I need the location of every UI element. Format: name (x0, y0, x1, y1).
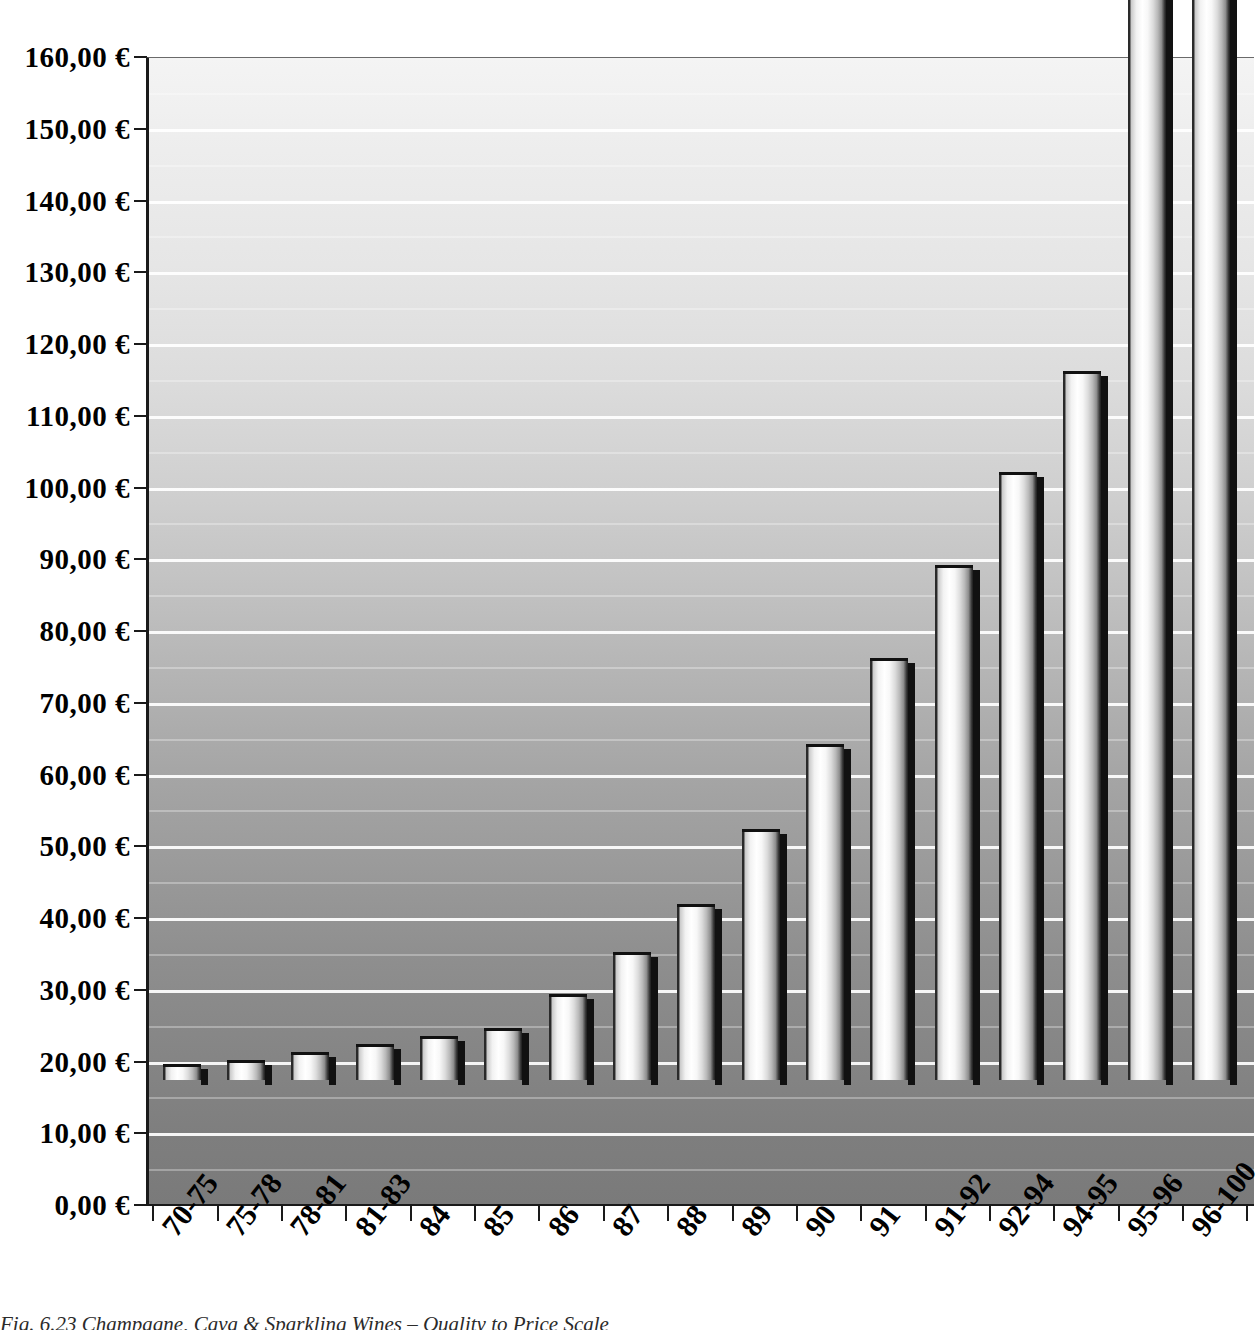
bar-body (999, 472, 1037, 1080)
y-axis-tick-label: 70,00 € (40, 686, 131, 719)
bar-shadow (201, 1069, 208, 1086)
x-axis-tick-mark (925, 1205, 927, 1221)
bar (1128, 0, 1172, 1080)
bar (549, 994, 593, 1080)
bar-body (870, 658, 908, 1080)
y-axis-tick-label: 130,00 € (25, 256, 131, 289)
x-axis-tick-mark (1118, 1205, 1120, 1221)
x-axis-tick-mark (345, 1205, 347, 1221)
bar-shadow (458, 1041, 465, 1085)
y-axis-tick-label: 10,00 € (40, 1117, 131, 1150)
bar (806, 744, 850, 1080)
y-axis-tick-label: 140,00 € (25, 184, 131, 217)
bar-body (549, 994, 587, 1080)
x-axis-tick-mark (603, 1205, 605, 1221)
y-axis: 160,00 €150,00 €140,00 €130,00 €120,00 €… (0, 0, 140, 1230)
x-axis-tick-mark (796, 1205, 798, 1221)
x-axis-tick-mark (860, 1205, 862, 1221)
bar (484, 1028, 528, 1080)
x-axis-tick-mark (1246, 1205, 1248, 1221)
bar-shadow (522, 1033, 529, 1085)
bar-shadow (973, 570, 980, 1085)
bar-series (146, 0, 1254, 1205)
bar (1063, 371, 1107, 1080)
bar (227, 1060, 271, 1080)
bar-body (227, 1060, 265, 1080)
bar-body (1063, 371, 1101, 1080)
y-axis-tick-label: 160,00 € (25, 41, 131, 74)
bar-shadow (780, 834, 787, 1085)
bar-body (420, 1036, 458, 1080)
y-axis-tick-label: 0,00 € (55, 1189, 131, 1222)
bar-body (356, 1044, 394, 1080)
bar-body (1192, 0, 1230, 1080)
bar (613, 952, 657, 1080)
y-axis-tick-label: 150,00 € (25, 112, 131, 145)
bar (935, 565, 979, 1080)
bar-shadow (908, 663, 915, 1085)
bar-shadow (844, 749, 851, 1085)
bar-shadow (329, 1057, 336, 1085)
y-axis-tick-label: 30,00 € (40, 973, 131, 1006)
bar-shadow (265, 1065, 272, 1085)
bar-shadow (1166, 0, 1173, 1085)
x-axis-tick-mark (667, 1205, 669, 1221)
x-axis-tick-mark (989, 1205, 991, 1221)
y-axis-tick-label: 20,00 € (40, 1045, 131, 1078)
bar (999, 472, 1043, 1080)
bar-body (806, 744, 844, 1080)
y-axis-tick-label: 100,00 € (25, 471, 131, 504)
bar (163, 1064, 207, 1081)
bar-shadow (715, 909, 722, 1086)
y-axis-tick-label: 110,00 € (26, 399, 130, 432)
bar-body (613, 952, 651, 1080)
y-axis-tick-label: 90,00 € (40, 543, 131, 576)
bar-body (1128, 0, 1166, 1080)
x-axis-tick-mark (1182, 1205, 1184, 1221)
bar-body (935, 565, 973, 1080)
figure-caption: Fig. 6.23 Champagne, Cava & Sparkling Wi… (0, 1312, 1254, 1330)
bar-body (163, 1064, 201, 1081)
bar (1192, 0, 1236, 1080)
x-axis-labels: 70-7575-7878-8181-83848586878889909191-9… (0, 1222, 1254, 1322)
x-axis-tick-mark (732, 1205, 734, 1221)
bar-body (742, 829, 780, 1080)
x-axis-tick-mark (1053, 1205, 1055, 1221)
x-axis-tick-mark (217, 1205, 219, 1221)
y-axis-tick-label: 60,00 € (40, 758, 131, 791)
bar (677, 904, 721, 1081)
bar-shadow (394, 1049, 401, 1085)
bar-shadow (587, 999, 594, 1085)
bar-shadow (1037, 477, 1044, 1085)
bar-shadow (1230, 0, 1237, 1085)
bar-body (677, 904, 715, 1081)
bar-body (484, 1028, 522, 1080)
x-axis-tick-mark (281, 1205, 283, 1221)
x-axis-tick-mark (538, 1205, 540, 1221)
bar (742, 829, 786, 1080)
y-axis-tick-label: 40,00 € (40, 902, 131, 935)
bar-body (291, 1052, 329, 1080)
bar-shadow (651, 957, 658, 1085)
x-axis-tick-mark (474, 1205, 476, 1221)
bar (356, 1044, 400, 1080)
x-axis-tick-mark (410, 1205, 412, 1221)
x-axis-tick-mark (152, 1205, 154, 1221)
bar (291, 1052, 335, 1080)
y-axis-tick-label: 120,00 € (25, 328, 131, 361)
y-axis-tick-label: 80,00 € (40, 615, 131, 648)
y-axis-tick-label: 50,00 € (40, 830, 131, 863)
bar-shadow (1101, 376, 1108, 1085)
bar (420, 1036, 464, 1080)
bar (870, 658, 914, 1080)
